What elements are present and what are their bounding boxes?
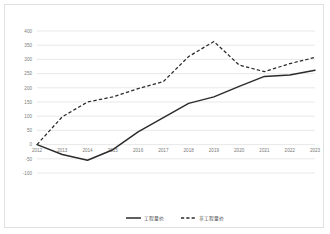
y-axis-tick-label: 350: [24, 43, 32, 48]
x-axis-tick-label: 2022: [285, 148, 296, 153]
y-axis-tick-label: 250: [24, 71, 32, 76]
y-axis-tick-label: 0: [29, 142, 32, 147]
x-axis-tick-label: 2014: [82, 148, 93, 153]
line-chart: 400350300250200150100500-50-100 20122013…: [5, 5, 325, 229]
x-axis-tick-label: 2020: [234, 148, 245, 153]
y-axis-tick-label: -100: [23, 171, 33, 176]
y-axis-tick-label: 300: [24, 57, 32, 62]
chart-legend: 工程量价非工程量价: [126, 215, 224, 222]
y-axis-tick-label: 100: [24, 114, 32, 119]
grid-lines: [37, 31, 315, 173]
legend-label: 工程量价: [144, 215, 164, 222]
x-axis-tick-label: 2013: [57, 148, 68, 153]
x-axis-tick-label: 2017: [158, 148, 169, 153]
x-axis-tick-labels: 2012201320142015201620172018201920202021…: [32, 148, 321, 153]
x-axis-tick-label: 2012: [32, 148, 43, 153]
y-axis-tick-label: -50: [25, 157, 32, 162]
y-axis-tick-label: 150: [24, 100, 32, 105]
x-axis-tick-label: 2018: [184, 148, 195, 153]
legend-label: 非工程量价: [199, 215, 224, 222]
x-axis-tick-label: 2023: [310, 148, 321, 153]
y-axis-tick-label: 50: [27, 128, 33, 133]
x-axis-tick-label: 2019: [209, 148, 220, 153]
series-line-solid: [37, 70, 315, 160]
chart-plot-area: 400350300250200150100500-50-100 20122013…: [5, 5, 323, 227]
y-axis-tick-label: 200: [24, 86, 32, 91]
x-axis-tick-label: 2021: [259, 148, 270, 153]
y-axis-tick-label: 400: [24, 29, 32, 34]
x-axis-tick-label: 2016: [133, 148, 144, 153]
y-axis-tick-labels: 400350300250200150100500-50-100: [23, 29, 33, 176]
series-line-dashed: [37, 42, 315, 145]
chart-container: 400350300250200150100500-50-100 20122013…: [4, 4, 324, 228]
